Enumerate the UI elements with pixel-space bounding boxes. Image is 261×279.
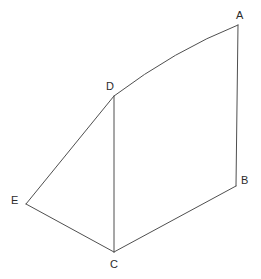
edge-layer xyxy=(26,25,238,252)
vertex-label-d: D xyxy=(106,81,114,92)
vertex-label-c: C xyxy=(110,259,118,270)
edge-ce xyxy=(26,204,114,252)
vertex-label-b: B xyxy=(241,175,248,186)
edge-ed xyxy=(26,96,114,204)
edge-ab xyxy=(236,25,238,186)
edge-bc xyxy=(114,186,236,252)
vertex-label-a: A xyxy=(236,10,243,21)
figure-canvas xyxy=(0,0,261,279)
edge-da xyxy=(114,25,238,96)
geometry-figure: ABCDE xyxy=(0,0,261,279)
vertex-label-e: E xyxy=(11,195,18,206)
